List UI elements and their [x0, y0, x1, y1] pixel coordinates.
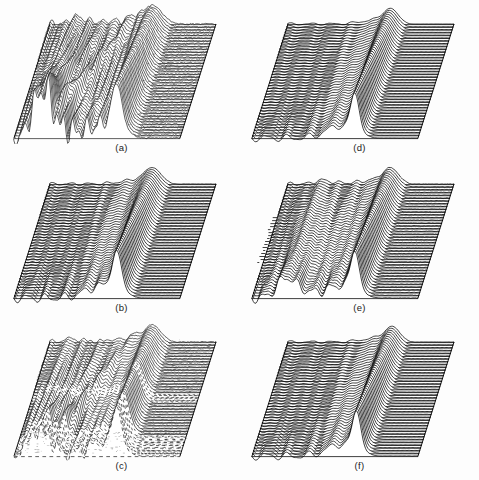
speckle-mark — [168, 440, 169, 441]
speckle-mark — [158, 423, 160, 424]
speckle-mark — [157, 379, 160, 380]
speckle-mark — [131, 452, 133, 453]
speckle-mark — [37, 450, 39, 451]
speckle-mark — [183, 352, 184, 353]
speckle-mark — [187, 393, 188, 394]
speckle-mark — [157, 411, 158, 412]
speckle-mark — [46, 436, 47, 437]
speckle-mark — [139, 113, 142, 114]
speckle-mark — [37, 446, 38, 447]
speckle-mark — [181, 412, 183, 413]
speckle-mark — [207, 30, 209, 31]
panel-c: (c) — [2, 322, 241, 480]
speckle-mark — [189, 44, 191, 45]
speckle-mark — [111, 448, 114, 449]
speckle-mark — [135, 435, 137, 436]
speckle-mark — [165, 452, 166, 453]
speckle-mark — [48, 433, 50, 434]
speckle-mark — [103, 432, 104, 433]
speckle-mark — [134, 114, 135, 115]
speckle-mark — [172, 446, 174, 447]
speckle-mark — [143, 113, 145, 114]
speckle-mark — [209, 344, 211, 345]
speckle-mark — [177, 378, 179, 379]
speckle-mark — [161, 350, 162, 351]
speckle-mark — [145, 441, 146, 442]
speckle-mark — [121, 441, 123, 442]
speckle-mark — [159, 394, 162, 395]
speckle-mark — [172, 365, 175, 366]
speckle-mark — [267, 238, 270, 239]
speckle-mark — [180, 442, 181, 443]
speckle-mark — [176, 397, 178, 398]
speckle-mark — [178, 84, 180, 85]
speckle-mark — [196, 375, 197, 376]
waterfall-svg — [240, 4, 479, 144]
speckle-mark — [158, 126, 159, 127]
speckle-mark — [198, 27, 199, 28]
speckle-mark — [154, 77, 157, 78]
speckle-mark — [117, 433, 118, 434]
panel-d: (d) — [240, 4, 479, 164]
speckle-mark — [65, 433, 66, 434]
speckle-mark — [157, 436, 158, 437]
speckle-mark — [70, 432, 72, 433]
speckle-mark — [71, 445, 72, 446]
speckle-mark — [182, 386, 185, 387]
speckle-mark — [185, 342, 186, 343]
speckle-mark — [170, 387, 172, 388]
speckle-mark — [161, 415, 163, 416]
speckle-mark — [174, 440, 175, 441]
speckle-mark — [182, 119, 184, 120]
speckle-mark — [177, 103, 178, 104]
speckle-mark — [153, 75, 156, 76]
speckle-mark — [194, 389, 195, 390]
speckle-mark — [193, 83, 194, 84]
speckle-mark — [27, 452, 28, 453]
speckle-mark — [40, 437, 41, 438]
speckle-mark — [270, 223, 275, 224]
speckle-mark — [160, 453, 162, 454]
speckle-mark — [170, 125, 171, 126]
speckle-mark — [175, 367, 178, 368]
speckle-mark — [192, 390, 193, 391]
speckle-mark — [176, 437, 177, 438]
speckle-mark — [82, 442, 83, 443]
speckle-mark — [272, 220, 277, 221]
speckle-mark — [169, 443, 170, 444]
speckle-mark — [162, 443, 163, 444]
speckle-mark — [116, 451, 117, 452]
speckle-mark — [150, 119, 151, 120]
speckle-mark — [178, 348, 181, 349]
speckle-mark — [58, 443, 59, 444]
speckle-mark — [171, 55, 172, 56]
speckle-mark — [148, 432, 150, 433]
speckle-mark — [176, 30, 179, 31]
speckle-mark — [163, 347, 166, 348]
speckle-mark — [99, 441, 100, 442]
speckle-mark — [188, 411, 190, 412]
speckle-mark — [171, 431, 174, 432]
speckle-mark — [178, 125, 179, 126]
speckle-mark — [143, 408, 144, 409]
speckle-mark — [158, 77, 159, 78]
speckle-mark — [195, 396, 198, 397]
speckle-mark — [201, 362, 203, 363]
speckle-mark — [173, 397, 176, 398]
speckle-mark — [194, 80, 196, 81]
speckle-mark — [180, 85, 181, 86]
speckle-mark — [166, 367, 168, 368]
speckle-mark — [179, 88, 180, 89]
speckle-mark — [147, 87, 148, 88]
speckle-mark — [165, 83, 168, 84]
speckle-mark — [25, 443, 28, 444]
speckle-mark — [61, 437, 63, 438]
speckle-mark — [161, 347, 162, 348]
speckle-mark — [82, 435, 85, 436]
speckle-mark — [166, 102, 167, 103]
speckle-mark — [187, 348, 190, 349]
speckle-mark — [174, 369, 176, 370]
speckle-mark — [186, 429, 187, 430]
speckle-mark — [187, 422, 189, 423]
speckle-mark — [270, 226, 275, 227]
